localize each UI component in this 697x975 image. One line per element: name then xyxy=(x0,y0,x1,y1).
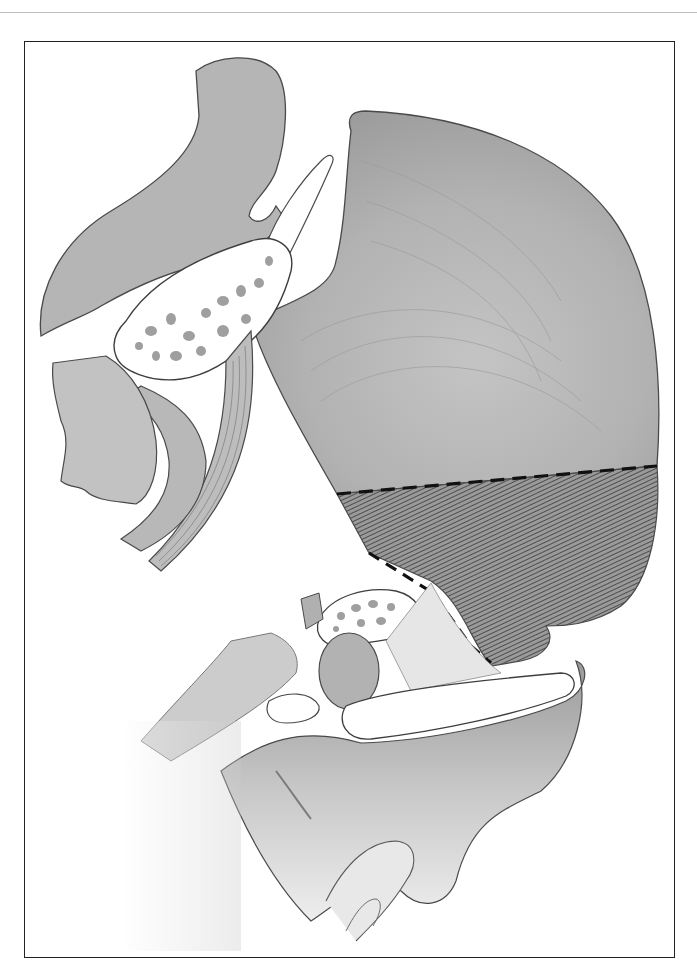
anatomical-illustration xyxy=(25,42,675,958)
small-cavity xyxy=(267,694,319,723)
oval-nodule xyxy=(319,633,379,709)
figure-frame xyxy=(24,41,675,958)
fade-overlay xyxy=(121,721,241,951)
large-fan-muscle xyxy=(251,111,659,494)
left-soft-tissue xyxy=(53,356,157,504)
top-rule xyxy=(0,12,697,13)
